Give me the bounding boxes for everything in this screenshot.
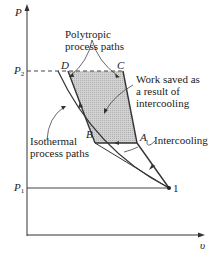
work-saved-annotation-line2: a result of	[136, 85, 180, 97]
p1-label: P1	[14, 181, 24, 197]
point-D-label: D	[61, 59, 69, 71]
point-1-label: 1	[173, 182, 179, 194]
polytropic-annotation-line1: Polytropic	[65, 28, 111, 40]
p2-subscript: 2	[21, 70, 25, 78]
work-saved-annotation-line3: intercooling	[136, 97, 189, 109]
x-axis-arrow	[198, 233, 205, 238]
intercooling-annotation: Intercooling	[154, 134, 208, 146]
p1-subscript: 1	[21, 187, 25, 195]
isothermal-annotation-line1: Isothermal	[30, 135, 77, 147]
isothermal-annotation-line2: process paths	[30, 147, 89, 159]
point-A-label: A	[140, 131, 147, 143]
y-axis-arrow	[25, 4, 30, 11]
point-C-label: C	[117, 59, 124, 71]
isothermal-leader-arrow	[61, 106, 66, 110]
point-1-dot	[167, 186, 171, 190]
p2-symbol: P	[14, 64, 21, 76]
polytropic-annotation-line2: process paths	[65, 40, 124, 52]
y-axis-label: P	[15, 6, 22, 18]
intercooling-leader-2	[124, 147, 138, 152]
x-axis-label: υ	[200, 239, 205, 251]
p2-label: P2	[14, 64, 24, 80]
point-B-label: B	[86, 128, 93, 140]
p1-symbol: P	[14, 181, 21, 193]
work-saved-annotation-line1: Work saved as	[136, 73, 200, 85]
